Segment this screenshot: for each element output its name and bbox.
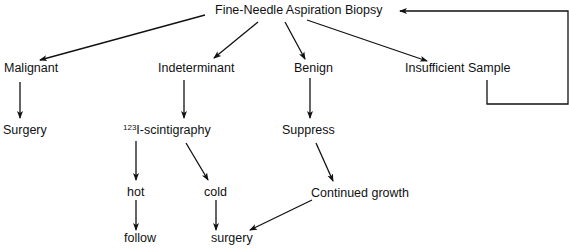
edge-feedback-loop <box>400 11 568 104</box>
node-fine-needle-aspiration-biopsy: Fine-Needle Aspiration Biopsy <box>215 3 382 17</box>
node-cold: cold <box>204 185 227 199</box>
node-indeterminant: Indeterminant <box>158 61 234 75</box>
node-insufficient-sample: Insufficient Sample <box>405 61 510 75</box>
isotope-superscript: 123 <box>123 123 136 132</box>
node-continued-growth: Continued growth <box>311 186 409 200</box>
edge-root-benign <box>285 22 305 59</box>
edge-growth-surgery <box>250 200 312 230</box>
edge-root-insufficient <box>307 20 427 61</box>
node-benign: Benign <box>294 61 333 75</box>
node-hot: hot <box>127 185 144 199</box>
edge-scintigraphy-cold <box>186 143 208 180</box>
node-scintigraphy: 123I-scintigraphy <box>123 123 211 137</box>
node-malignant: Malignant <box>4 61 58 75</box>
node-surgery-final: surgery <box>211 231 253 245</box>
scintigraphy-label: I-scintigraphy <box>136 123 210 137</box>
edge-root-indeterminant <box>214 22 258 58</box>
node-follow: follow <box>124 231 156 245</box>
edge-root-malignant <box>40 15 205 60</box>
edge-suppress-growth <box>316 143 333 181</box>
node-suppress: Suppress <box>282 123 335 137</box>
node-surgery-malignant: Surgery <box>3 123 47 137</box>
